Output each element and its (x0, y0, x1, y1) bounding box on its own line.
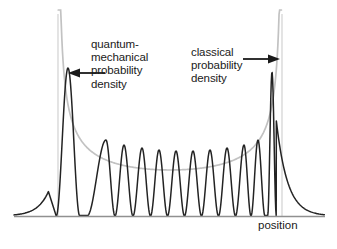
classical-probability-density-label: classical probability density (191, 46, 242, 86)
quantum-probability-curve (14, 68, 324, 216)
classical-arrow-head (268, 54, 280, 63)
classical-annotation-arrow (243, 54, 280, 63)
quantum-probability-density-label: quantum- mechanical probability density (91, 38, 148, 91)
probability-density-plot (0, 0, 337, 249)
x-axis-label: position (258, 219, 298, 231)
figure-container: quantum- mechanical probability density … (0, 0, 337, 249)
